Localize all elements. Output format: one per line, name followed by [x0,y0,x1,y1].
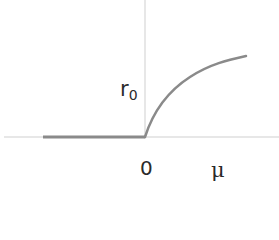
nontrivial-branch [145,56,246,137]
origin-label: 0 [140,158,153,178]
y-axis-label: r0 [120,79,138,102]
x-axis-label: μ [211,160,225,181]
